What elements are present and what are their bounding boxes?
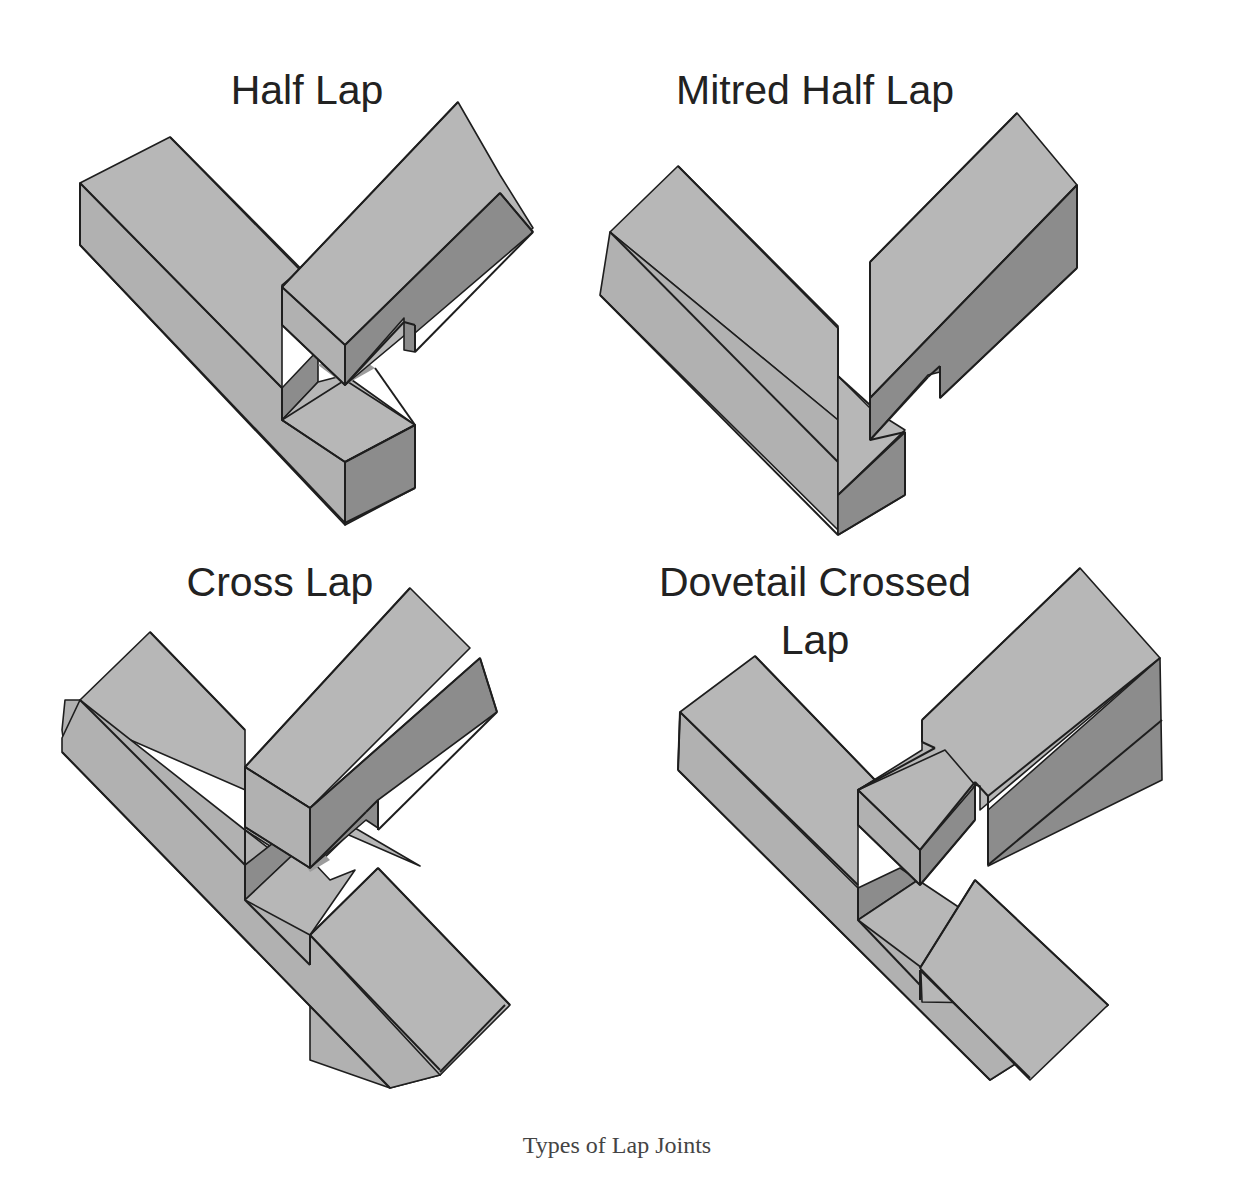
panel-title-mitred-half-lap: Mitred Half Lap xyxy=(640,66,990,114)
half-lap-diagram xyxy=(80,102,533,525)
panel-title-cross-lap: Cross Lap xyxy=(150,558,410,606)
panel-title-dovetail-crossed-lap-line1: Dovetail Crossed xyxy=(620,558,1010,606)
panel-title-dovetail-crossed-lap-line2: Lap xyxy=(620,616,1010,664)
panel-title-half-lap: Half Lap xyxy=(200,66,414,114)
cross-lap-diagram xyxy=(62,588,510,1088)
mitred-half-lap-diagram xyxy=(600,113,1077,535)
figure-caption: Types of Lap Joints xyxy=(0,1132,1234,1159)
